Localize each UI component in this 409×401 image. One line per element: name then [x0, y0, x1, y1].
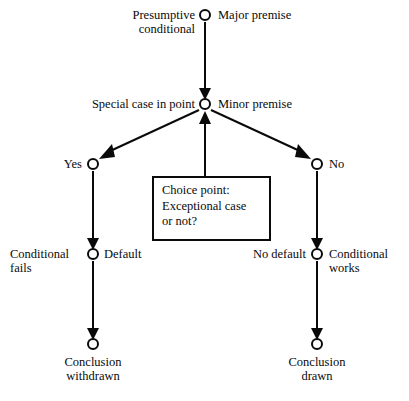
label-conditional-works: Conditional works: [329, 247, 407, 275]
edge-yes-to-default: [87, 171, 99, 250]
label-default: Default: [104, 247, 174, 261]
label-minor-premise: Minor premise: [218, 97, 348, 111]
label-yes: Yes: [38, 157, 82, 171]
edge-box-to-minor: [199, 111, 211, 177]
label-major-premise: Major premise: [218, 8, 348, 22]
edge-no-to-no-default: [311, 171, 323, 250]
label-special-case-in-point: Special case in point: [60, 97, 195, 111]
node-conclusion-drawn: [312, 339, 322, 349]
node-yes: [88, 159, 98, 169]
edge-default-to-conclusion-withdrawn: [87, 261, 99, 340]
edge-minor-to-yes: [99, 110, 199, 159]
node-conclusion-withdrawn: [88, 339, 98, 349]
node-default: [88, 249, 98, 259]
label-no: No: [329, 157, 373, 171]
label-conclusion-drawn: Conclusion drawn: [262, 355, 372, 383]
node-minor-premise: [200, 99, 210, 109]
node-no: [312, 159, 322, 169]
edge-no-default-to-conclusion-drawn: [311, 261, 323, 340]
node-major-premise: [200, 10, 210, 20]
label-conclusion-withdrawn: Conclusion withdrawn: [38, 355, 148, 383]
edge-major-to-minor: [199, 22, 211, 100]
node-no-default: [312, 249, 322, 259]
label-presumptive-conditional: Presumptive conditional: [70, 8, 195, 36]
diagram-canvas: Presumptive conditional Major premise Sp…: [0, 0, 409, 401]
edge-minor-to-no: [211, 110, 311, 159]
label-conditional-fails: Conditional fails: [10, 247, 82, 275]
label-choice-point-box: Choice point: Exceptional case or not?: [162, 183, 270, 230]
label-no-default: No default: [231, 247, 306, 261]
